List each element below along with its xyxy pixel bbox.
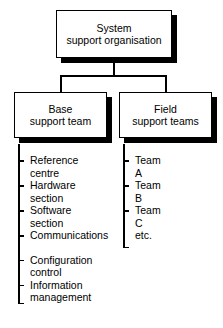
sublist-item: TeamB bbox=[123, 180, 213, 203]
figure-caption-strip bbox=[14, 320, 214, 328]
node-field-support-teams: Field support teams bbox=[119, 92, 212, 138]
sublist-item-label-continued: B bbox=[135, 193, 213, 204]
sublist-item-label-continued: A bbox=[135, 168, 213, 179]
sublist-base-support-team: ReferencecentreHardwaresectionSoftwarese… bbox=[18, 155, 138, 305]
connector-drop-field-teams bbox=[165, 75, 167, 93]
sublist-item: Hardwaresection bbox=[18, 180, 138, 203]
node-base-support-team: Base support team bbox=[14, 92, 107, 138]
sublist-item: Configurationcontrol bbox=[18, 255, 138, 278]
field-label-line2: support teams bbox=[132, 115, 199, 127]
org-chart-diagram: System support organisation Base support… bbox=[0, 0, 223, 328]
sublist-item-label: etc. bbox=[135, 230, 213, 241]
sublist-item-label-continued: control bbox=[30, 267, 138, 278]
sublist-item-label: Reference bbox=[30, 155, 138, 166]
field-label-line1: Field bbox=[154, 103, 177, 115]
sublist-item-label-continued: section bbox=[30, 193, 138, 204]
sublist-item-label: Hardware bbox=[30, 180, 138, 191]
base-label-line1: Base bbox=[49, 103, 73, 115]
sublist-group-gap bbox=[18, 243, 138, 255]
connector-horizontal-bus bbox=[60, 75, 166, 77]
sublist-item-label: Communications bbox=[30, 230, 138, 241]
sublist-item-label: Information bbox=[30, 280, 138, 291]
sublist-item: TeamC bbox=[123, 205, 213, 228]
sublist-item: TeamA bbox=[123, 155, 213, 178]
sublist-item-label-continued: C bbox=[135, 218, 213, 229]
sublist-item-label-continued: management bbox=[30, 292, 138, 303]
sublist-item-label-continued: centre bbox=[30, 168, 138, 179]
sublist-item-label: Configuration bbox=[30, 255, 138, 266]
sublist-item: Referencecentre bbox=[18, 155, 138, 178]
root-label-line1: System bbox=[96, 22, 131, 34]
sublist-item-label: Software bbox=[30, 205, 138, 216]
sublist-item: Informationmanagement bbox=[18, 280, 138, 303]
sublist-item-label: Team bbox=[135, 180, 213, 191]
sublist-item: Communications bbox=[18, 230, 138, 241]
root-label-line2: support organisation bbox=[66, 34, 161, 46]
node-system-support-organisation: System support organisation bbox=[56, 10, 172, 58]
sublist-item-label: Team bbox=[135, 155, 213, 166]
sublist-item-label-continued: section bbox=[30, 218, 138, 229]
base-label-line2: support team bbox=[30, 115, 91, 127]
sublist-item-label: Team bbox=[135, 205, 213, 216]
sublist-item: Softwaresection bbox=[18, 205, 138, 228]
sublist-item: etc. bbox=[123, 230, 213, 241]
connector-drop-base-team bbox=[60, 75, 62, 93]
sublist-field-support-teams: TeamATeamBTeamCetc. bbox=[123, 155, 213, 243]
